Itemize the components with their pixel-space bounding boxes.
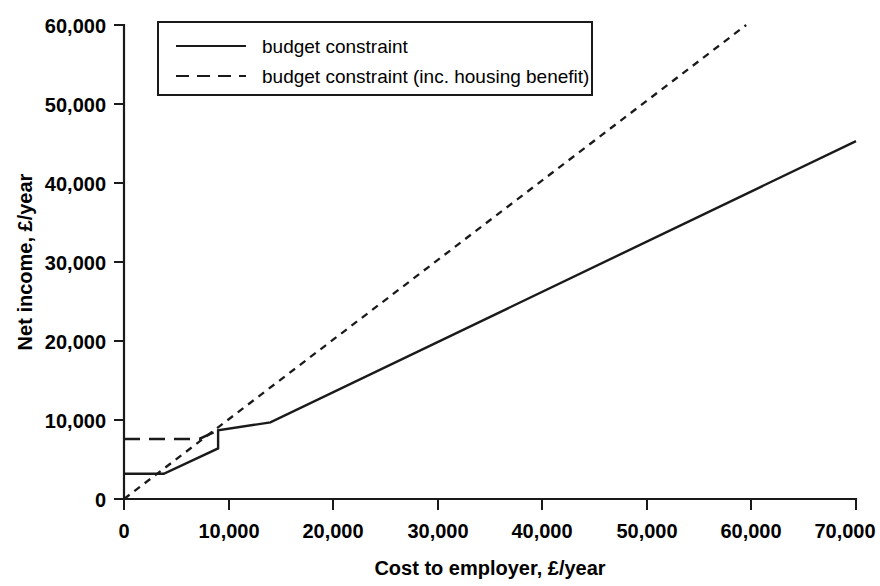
y-axis-title: Net income, £/year (14, 173, 36, 350)
x-tick-label: 0 (118, 520, 129, 542)
x-axis-title: Cost to employer, £/year (374, 557, 605, 579)
y-tick-label: 10,000 (45, 410, 106, 432)
x-axis-tick-labels: 0 10,000 20,000 30,000 40,000 50,000 60,… (118, 520, 875, 542)
y-tick-label: 40,000 (45, 173, 106, 195)
chart-legend: budget constraint budget constraint (inc… (158, 22, 592, 95)
chart-figure: 60,000 50,000 40,000 30,000 20,000 10,00… (0, 0, 880, 586)
y-tick-label: 20,000 (45, 331, 106, 353)
y-axis-tick-labels: 60,000 50,000 40,000 30,000 20,000 10,00… (45, 15, 106, 511)
y-tick-label: 60,000 (45, 15, 106, 37)
x-tick-label: 10,000 (198, 520, 259, 542)
x-tick-label: 30,000 (407, 520, 468, 542)
legend-label-0: budget constraint (262, 36, 408, 57)
y-axis-ticks (114, 25, 124, 499)
x-tick-label: 70,000 (814, 520, 875, 542)
x-tick-label: 20,000 (302, 520, 363, 542)
y-tick-label: 0 (95, 489, 106, 511)
series-line-1-seg-0 (124, 430, 218, 439)
chart-canvas: 60,000 50,000 40,000 30,000 20,000 10,00… (0, 0, 880, 586)
y-tick-label: 30,000 (45, 252, 106, 274)
legend-label-1: budget constraint (inc. housing benefit) (262, 66, 589, 87)
x-tick-label: 40,000 (511, 520, 572, 542)
x-axis-ticks (124, 499, 856, 510)
x-tick-label: 60,000 (720, 520, 781, 542)
series-line-0 (124, 141, 856, 474)
series-line-1-seg-1 (124, 25, 746, 499)
x-tick-label: 50,000 (616, 520, 677, 542)
data-series-layer (124, 25, 856, 499)
y-tick-label: 50,000 (45, 94, 106, 116)
